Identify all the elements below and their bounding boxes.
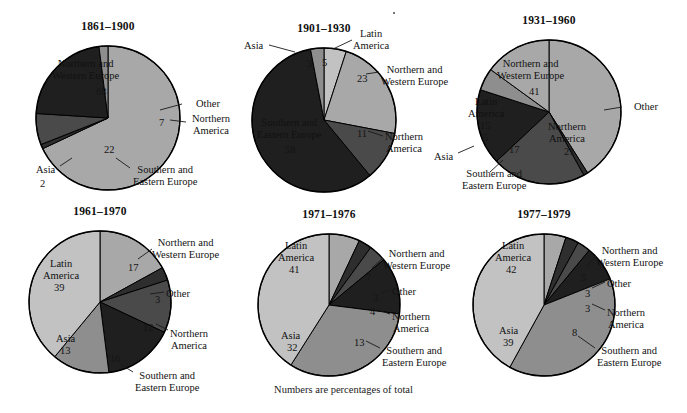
- pie-slice-southern-and-eastern-europe[interactable]: [36, 47, 108, 118]
- slice-label-other: Other: [196, 98, 220, 110]
- pie-chart-figure: 1861–1900Northern andWestern Europe68Oth…: [0, 0, 687, 413]
- slice-label-northern-america: NorthernAmerica: [170, 328, 208, 351]
- page-speck: [393, 12, 395, 14]
- panel-title: 1861–1900: [0, 20, 218, 32]
- panel-title: 1977–1979: [434, 208, 654, 220]
- slice-label-northern-and-western-europe: Northern andWestern Europe: [152, 237, 219, 260]
- panel-title: 1901–1930: [214, 22, 434, 34]
- slice-label-southern-and-eastern-europe: Southern andEastern Europe: [597, 345, 661, 368]
- slice-label-asia: Asia: [434, 151, 453, 163]
- leader-line-asia: [458, 146, 474, 153]
- panel-title: 1961–1970: [0, 205, 210, 217]
- figure-caption: Numbers are percentages of total: [0, 384, 687, 395]
- leader-line-latin-america: [333, 40, 352, 49]
- slice-label-asia: Asia: [36, 164, 55, 176]
- slice-label-northern-and-western-europe: Northern andWestern Europe: [381, 64, 448, 87]
- slice-value-asia: 2: [40, 178, 45, 190]
- slice-label-northern-america: NorthernAmerica: [192, 113, 230, 136]
- slice-label-southern-and-eastern-europe: Southern andEastern Europe: [382, 345, 446, 368]
- leader-line-asia: [269, 45, 295, 52]
- slice-label-northern-and-western-europe: Northern andWestern Europe: [383, 248, 450, 271]
- panel-title: 1971–1976: [219, 208, 439, 220]
- slice-label-northern-and-western-europe: Northern andWestern Europe: [596, 245, 663, 268]
- slice-label-asia: Asia: [244, 40, 263, 52]
- panel-title: 1931–1960: [439, 14, 659, 26]
- slice-label-other: Other: [634, 101, 658, 113]
- slice-label-latin-america: LatinAmerica: [353, 28, 389, 51]
